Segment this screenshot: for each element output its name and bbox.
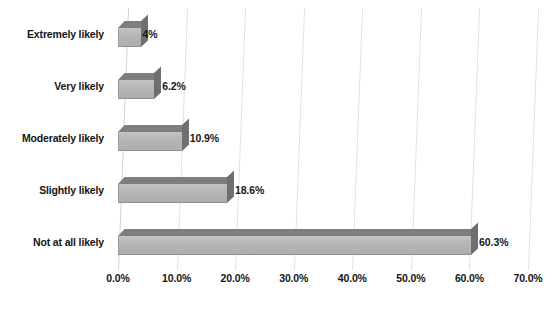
xtick-label-6: 60.0% xyxy=(455,272,484,284)
bar-side-face xyxy=(154,66,161,99)
bars-layer: 4% 6.2% 10.9% 18.6% xyxy=(118,8,548,270)
bar-front-face xyxy=(118,80,154,99)
bar-slightly-likely xyxy=(118,177,227,203)
category-label-not-at-all-likely: Not at all likely xyxy=(33,216,104,268)
bar-top-face xyxy=(118,177,233,184)
bar-very-likely xyxy=(118,73,154,99)
bar-front-face xyxy=(118,28,141,47)
bar-row: 60.3% xyxy=(118,216,508,268)
xtick-label-2: 20.0% xyxy=(221,272,250,284)
bar-value-label: 18.6% xyxy=(235,184,264,196)
bar-row: 4% xyxy=(118,8,157,60)
xtick-label-4: 40.0% xyxy=(338,272,367,284)
bar-top-face xyxy=(118,229,478,236)
xtick-label-0: 0.0% xyxy=(106,272,129,284)
category-label-moderately-likely: Moderately likely xyxy=(22,112,104,164)
bar-front-face xyxy=(118,236,471,255)
category-label-very-likely: Very likely xyxy=(54,60,104,112)
xtick-label-5: 50.0% xyxy=(396,272,425,284)
bar-moderately-likely xyxy=(118,125,182,151)
category-label-slightly-likely: Slightly likely xyxy=(39,164,104,216)
category-label-extremely-likely: Extremely likely xyxy=(27,8,104,60)
bar-value-label: 10.9% xyxy=(190,132,219,144)
value-axis: 0.0% 10.0% 20.0% 30.0% 40.0% 50.0% 60.0%… xyxy=(118,272,528,292)
bar-row: 10.9% xyxy=(118,112,219,164)
xtick-label-1: 10.0% xyxy=(162,272,191,284)
bar-row: 18.6% xyxy=(118,164,264,216)
bar-front-face xyxy=(118,132,182,151)
bar-value-label: 60.3% xyxy=(479,236,508,248)
bar-extremely-likely xyxy=(118,21,141,47)
xtick-label-7: 70.0% xyxy=(513,272,542,284)
bar-side-face xyxy=(471,222,478,255)
bar-top-face xyxy=(118,125,188,132)
bar-row: 6.2% xyxy=(118,60,186,112)
bar-value-label: 6.2% xyxy=(162,80,186,92)
category-axis: Extremely likely Very likely Moderately … xyxy=(0,8,110,270)
category-text: Moderately likely xyxy=(22,132,104,144)
bar-side-face xyxy=(227,170,234,203)
xtick-label-3: 30.0% xyxy=(279,272,308,284)
bar-front-face xyxy=(118,184,227,203)
bar-side-face xyxy=(182,118,189,151)
category-text: Slightly likely xyxy=(39,184,104,196)
category-text: Very likely xyxy=(54,80,104,92)
bar-not-at-all-likely xyxy=(118,229,471,255)
category-text: Extremely likely xyxy=(27,28,104,40)
bar-chart: Extremely likely Very likely Moderately … xyxy=(0,0,552,309)
category-text: Not at all likely xyxy=(33,236,104,248)
bar-value-label: 4% xyxy=(142,28,157,40)
